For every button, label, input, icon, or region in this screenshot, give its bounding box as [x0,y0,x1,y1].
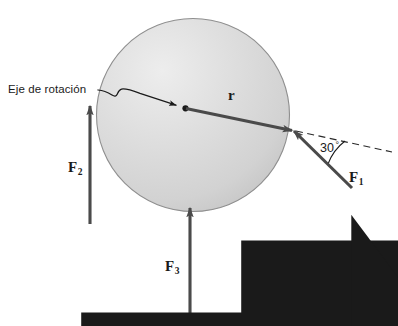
vector-F2-subscript: 2 [78,167,83,177]
vector-F1-subscript: 1 [359,177,364,187]
vector-F2-label: F 2 [68,160,82,175]
angle-label: 30° [320,142,338,155]
vector-F3-symbol: F [165,258,174,274]
vector-F3-subscript: 3 [175,266,180,276]
vector-F1-symbol: F [349,169,358,185]
vector-r-symbol: r [228,87,235,103]
pivot-axis-label: Eje de rotación [8,84,86,96]
angle-value: 30 [320,141,334,155]
vector-r-label: r [228,88,235,103]
diagram-canvas [0,0,398,326]
degree-symbol: ° [335,140,339,150]
vector-F3-label: F 3 [165,259,179,274]
physics-torque-diagram: Eje de rotación r F 1 [0,0,398,326]
vector-F1-arrow [294,131,352,188]
rotating-disc [97,19,290,212]
vector-F1-label: F 1 [349,170,363,185]
vector-F2-symbol: F [68,159,77,175]
